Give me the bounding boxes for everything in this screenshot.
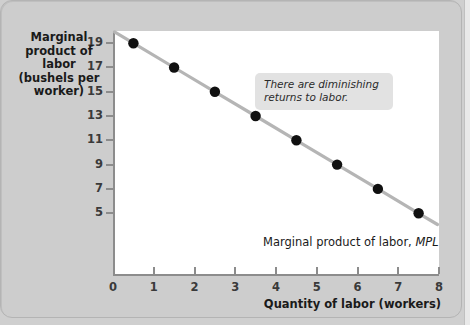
y-axis-title-line: product of labor xyxy=(9,45,109,72)
y-axis-title-line: Marginal xyxy=(9,31,109,45)
figure-card: 5791113151719012345678 Marginalproduct o… xyxy=(0,0,462,318)
data-point-marker xyxy=(169,62,179,72)
mpl-trend-line xyxy=(115,32,438,225)
series-label: Marginal product of labor, MPL xyxy=(263,235,439,249)
y-axis-title-line: (bushels per xyxy=(9,72,109,86)
series-label-prefix: Marginal product of labor, xyxy=(263,235,415,249)
data-point-marker xyxy=(291,135,301,145)
data-point-marker xyxy=(332,159,342,169)
data-point-marker xyxy=(373,184,383,194)
x-axis-title: Quantity of labor (workers) xyxy=(211,297,441,311)
annotation-diminishing-returns: There are diminishing returns to labor. xyxy=(255,73,393,110)
data-point-marker xyxy=(128,38,138,48)
data-point-marker xyxy=(210,87,220,97)
data-point-marker xyxy=(413,208,423,218)
data-point-marker xyxy=(250,111,260,121)
series-label-emphasis: MPL xyxy=(415,235,438,249)
y-axis-title-line: worker) xyxy=(9,85,109,99)
page-edge-strip xyxy=(464,0,470,325)
y-axis-title: Marginalproduct of labor(bushels perwork… xyxy=(9,31,109,99)
